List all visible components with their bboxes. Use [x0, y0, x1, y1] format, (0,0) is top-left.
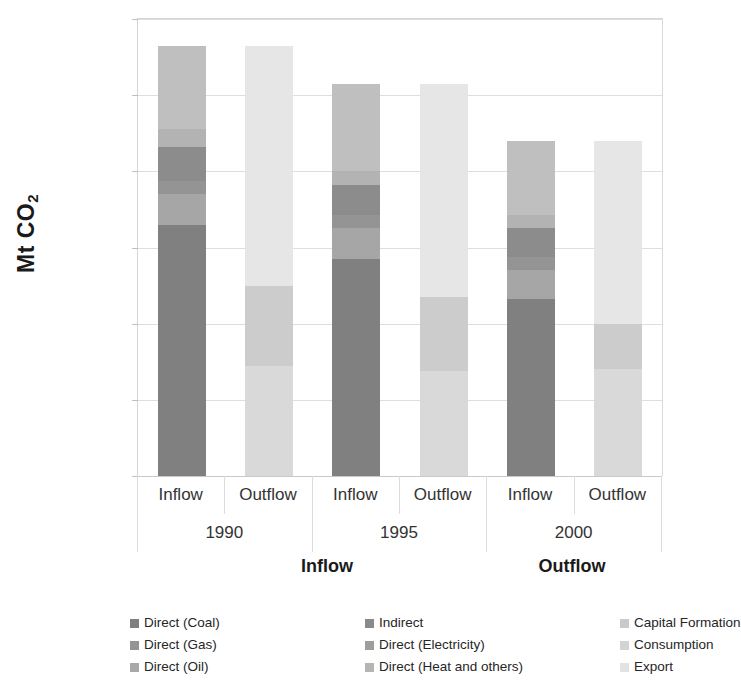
- legend-label-consumption: Consumption: [634, 638, 714, 652]
- x-label-flow-1995-inflow: Inflow: [312, 476, 399, 514]
- bar-1990-inflow[interactable]: [158, 46, 206, 476]
- legend-item-direct-heat-and-others[interactable]: Direct (Heat and others): [365, 656, 523, 678]
- bar-1990-outflow[interactable]: [245, 46, 293, 476]
- legend-swatch-icon-indirect: [365, 619, 374, 628]
- legend-item-direct-gas[interactable]: Direct (Gas): [130, 634, 220, 656]
- bar-segment-direct-heat-and-others[interactable]: [332, 171, 380, 184]
- bar-segment-direct-oil[interactable]: [158, 194, 206, 224]
- bar-segment-direct-oil[interactable]: [507, 270, 555, 299]
- y-axis-title: Mt CO2: [13, 164, 40, 304]
- y-axis-tick-mark: [132, 400, 138, 401]
- bar-1995-inflow[interactable]: [332, 84, 380, 476]
- gridline-40000: [138, 324, 662, 325]
- bar-segment-direct-oil[interactable]: [332, 228, 380, 258]
- x-label-year-2000: 2000: [486, 514, 661, 552]
- legend-label-export: Export: [634, 660, 673, 674]
- legend-label-direct-gas: Direct (Gas): [144, 638, 217, 652]
- legend-item-consumption[interactable]: Consumption: [620, 634, 741, 656]
- x-label-flow-1995-outflow: Outflow: [399, 476, 486, 514]
- x-axis-separator: [312, 514, 313, 552]
- gridline-20000: [138, 400, 662, 401]
- x-axis-separator: [486, 514, 487, 552]
- group-title-inflow: Inflow: [247, 556, 407, 577]
- y-axis-tick-mark: [132, 19, 138, 20]
- x-axis-separator: [224, 476, 225, 514]
- x-axis-group-titles: InflowOutflow: [137, 556, 662, 586]
- chart-legend: Direct (Coal)Direct (Gas)Direct (Oil)Ind…: [130, 612, 670, 678]
- bar-segment-direct-gas[interactable]: [332, 215, 380, 228]
- bar-1995-outflow[interactable]: [420, 84, 468, 476]
- gridline-80000: [138, 171, 662, 172]
- legend-item-direct-coal[interactable]: Direct (Coal): [130, 612, 220, 634]
- bar-segment-direct-coal[interactable]: [158, 225, 206, 476]
- y-axis-tick-mark: [132, 324, 138, 325]
- legend-column-1: Direct (Coal)Direct (Gas)Direct (Oil): [130, 612, 220, 678]
- legend-label-direct-heat-and-others: Direct (Heat and others): [379, 660, 523, 674]
- x-axis-separator: [312, 476, 313, 514]
- bar-segment-capital-formation[interactable]: [594, 369, 642, 476]
- y-axis-title-text: Mt CO: [13, 203, 39, 273]
- bar-segment-direct-heat-and-others[interactable]: [158, 129, 206, 146]
- bar-segment-capital-formation[interactable]: [245, 366, 293, 476]
- x-label-flow-1990-inflow: Inflow: [137, 476, 224, 514]
- gridline-60000: [138, 248, 662, 249]
- bar-segment-direct-electricity[interactable]: [332, 185, 380, 215]
- bar-segment-indirect[interactable]: [507, 141, 555, 215]
- x-axis-separator: [661, 514, 662, 552]
- bar-2000-outflow[interactable]: [594, 141, 642, 476]
- legend-item-direct-oil[interactable]: Direct (Oil): [130, 656, 220, 678]
- legend-swatch-icon-direct-oil: [130, 663, 139, 672]
- x-axis-year-labels: 199019952000: [137, 514, 662, 554]
- bar-segment-consumption[interactable]: [245, 286, 293, 366]
- legend-label-capital-formation: Capital Formation: [634, 616, 741, 630]
- group-title-outflow: Outflow: [487, 556, 657, 577]
- x-axis-separator: [137, 476, 138, 514]
- gridline-120000: [138, 19, 662, 20]
- legend-column-2: IndirectDirect (Electricity)Direct (Heat…: [365, 612, 523, 678]
- bar-segment-direct-electricity[interactable]: [158, 147, 206, 181]
- bar-segment-direct-coal[interactable]: [332, 259, 380, 476]
- legend-swatch-icon-capital-formation: [620, 619, 629, 628]
- legend-label-direct-coal: Direct (Coal): [144, 616, 220, 630]
- bar-segment-consumption[interactable]: [420, 297, 468, 371]
- x-label-year-1995: 1995: [312, 514, 487, 552]
- bar-segment-capital-formation[interactable]: [420, 371, 468, 476]
- legend-item-export[interactable]: Export: [620, 656, 741, 678]
- legend-label-direct-electricity: Direct (Electricity): [379, 638, 485, 652]
- x-axis-separator: [399, 476, 400, 514]
- y-axis-title-subscript: 2: [24, 194, 41, 203]
- x-axis-flow-labels: InflowOutflowInflowOutflowInflowOutflow: [137, 476, 662, 514]
- y-axis-tick-mark: [132, 248, 138, 249]
- x-axis-separator: [137, 514, 138, 552]
- bar-2000-inflow[interactable]: [507, 141, 555, 476]
- legend-item-indirect[interactable]: Indirect: [365, 612, 523, 634]
- bar-segment-direct-gas[interactable]: [507, 257, 555, 270]
- bar-segment-direct-gas[interactable]: [158, 181, 206, 194]
- bar-segment-direct-electricity[interactable]: [507, 228, 555, 257]
- legend-column-3: Capital FormationConsumptionExport: [620, 612, 741, 678]
- x-label-flow-2000-outflow: Outflow: [574, 476, 661, 514]
- legend-swatch-icon-direct-coal: [130, 619, 139, 628]
- legend-label-indirect: Indirect: [379, 616, 423, 630]
- x-axis-separator: [574, 476, 575, 514]
- legend-item-capital-formation[interactable]: Capital Formation: [620, 612, 741, 634]
- bar-segment-export[interactable]: [594, 141, 642, 324]
- bar-segment-export[interactable]: [245, 46, 293, 286]
- legend-item-direct-electricity[interactable]: Direct (Electricity): [365, 634, 523, 656]
- legend-swatch-icon-direct-gas: [130, 641, 139, 650]
- legend-swatch-icon-export: [620, 663, 629, 672]
- legend-swatch-icon-direct-electricity: [365, 641, 374, 650]
- legend-label-direct-oil: Direct (Oil): [144, 660, 209, 674]
- x-axis-separator: [486, 476, 487, 514]
- bar-segment-direct-coal[interactable]: [507, 299, 555, 476]
- bar-segment-indirect[interactable]: [332, 84, 380, 172]
- gridline-100000: [138, 95, 662, 96]
- x-axis-separator: [661, 476, 662, 514]
- bar-segment-consumption[interactable]: [594, 324, 642, 370]
- bar-segment-export[interactable]: [420, 84, 468, 297]
- y-axis-tick-mark: [132, 171, 138, 172]
- x-label-flow-1990-outflow: Outflow: [224, 476, 311, 514]
- bar-segment-indirect[interactable]: [158, 46, 206, 130]
- bar-segment-direct-heat-and-others[interactable]: [507, 215, 555, 228]
